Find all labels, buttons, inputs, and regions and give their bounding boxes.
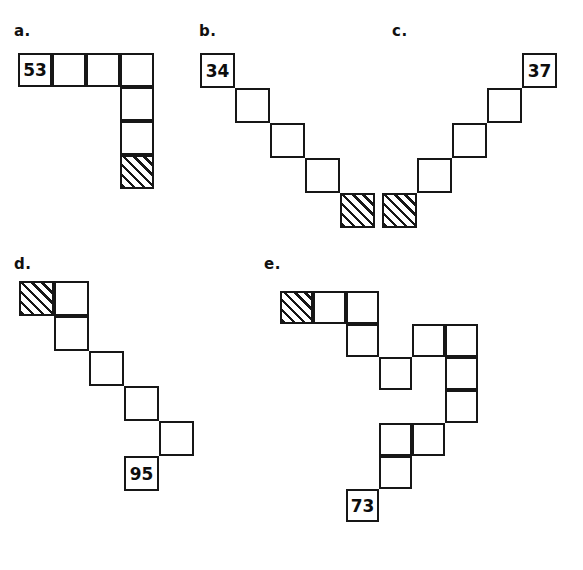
figure-panel-e: e.73	[0, 0, 583, 570]
figure-sheet: a.53b.34c.37d.95e.73	[0, 0, 583, 570]
empty-cell[interactable]	[412, 423, 445, 456]
empty-cell[interactable]	[412, 324, 445, 357]
panel-label-e: e.	[264, 257, 281, 272]
empty-cell[interactable]	[445, 357, 478, 390]
empty-cell[interactable]	[379, 423, 412, 456]
labeled-cell[interactable]: 73	[346, 489, 379, 522]
empty-cell[interactable]	[445, 324, 478, 357]
empty-cell[interactable]	[346, 324, 379, 357]
empty-cell[interactable]	[346, 291, 379, 324]
empty-cell[interactable]	[445, 390, 478, 423]
empty-cell[interactable]	[313, 291, 346, 324]
hatched-cell[interactable]	[280, 291, 313, 324]
empty-cell[interactable]	[379, 456, 412, 489]
cell-value: 73	[348, 497, 377, 514]
empty-cell[interactable]	[379, 357, 412, 390]
